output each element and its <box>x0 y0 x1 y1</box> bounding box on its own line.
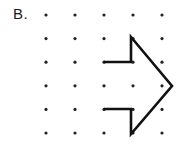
grid-dot <box>102 131 105 134</box>
grid-dot <box>131 61 134 64</box>
grid-dot <box>160 37 163 40</box>
grid-dot <box>73 13 76 16</box>
grid-dot <box>131 13 134 16</box>
grid-dot <box>44 13 47 16</box>
grid-dot <box>131 131 134 134</box>
grid-dot <box>160 84 163 87</box>
grid-dot <box>73 37 76 40</box>
grid-dot <box>131 37 134 40</box>
grid-dot <box>102 108 105 111</box>
grid-dot <box>44 108 47 111</box>
grid-dot <box>73 108 76 111</box>
grid-dot <box>44 84 47 87</box>
figure-canvas: B. <box>0 0 180 148</box>
grid-dot <box>131 84 134 87</box>
grid-dot <box>44 61 47 64</box>
grid-dot <box>102 84 105 87</box>
grid-dot <box>44 131 47 134</box>
grid-dot <box>102 37 105 40</box>
grid-dot <box>160 108 163 111</box>
grid-dot <box>44 37 47 40</box>
grid-dot <box>160 13 163 16</box>
grid-dot <box>102 61 105 64</box>
grid-dot <box>131 108 134 111</box>
grid-dot <box>73 61 76 64</box>
grid-dot <box>73 131 76 134</box>
grid-dot <box>73 84 76 87</box>
grid-dot <box>160 61 163 64</box>
dot-grid-points <box>44 13 163 134</box>
grid-dot <box>160 131 163 134</box>
dot-grid <box>0 0 180 148</box>
grid-dot <box>102 13 105 16</box>
